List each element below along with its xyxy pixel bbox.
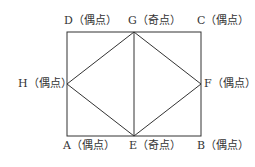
edge-F-E bbox=[134, 84, 201, 136]
label-A: A（偶点） bbox=[63, 140, 115, 152]
edge-G-H bbox=[67, 32, 134, 84]
label-C: C（偶点） bbox=[197, 15, 249, 27]
edge-H-E bbox=[67, 84, 134, 136]
label-G: G（奇点） bbox=[128, 15, 181, 27]
label-B: B（偶点） bbox=[197, 140, 249, 152]
label-E: E（奇点） bbox=[129, 140, 181, 152]
edge-G-F bbox=[134, 32, 201, 84]
label-D: D（偶点） bbox=[64, 15, 117, 27]
label-H: H（偶点） bbox=[18, 78, 72, 90]
label-F: F（偶点） bbox=[204, 78, 255, 90]
